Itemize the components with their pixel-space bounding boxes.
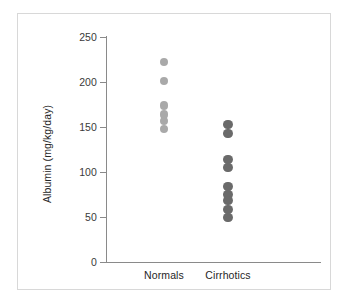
data-point [160,58,168,66]
data-point [160,117,168,125]
data-point [223,163,232,172]
data-point [223,196,232,205]
data-point [223,129,232,138]
figure-container: 250 200 150 100 50 0 Albumin (mg/kg/day)… [0,0,349,303]
data-point [160,101,168,109]
data-point [160,77,168,85]
plot-area: 250 200 150 100 50 0 Albumin (mg/kg/day)… [0,0,349,303]
data-point-layer [0,0,349,303]
data-point [160,125,168,133]
data-point [223,213,232,222]
data-point [223,120,232,129]
